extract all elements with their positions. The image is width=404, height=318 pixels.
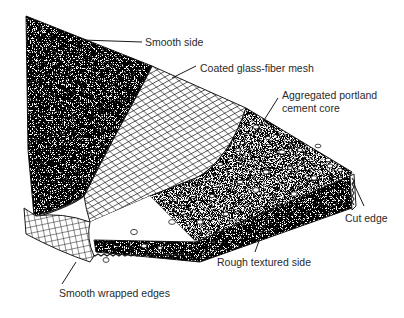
label-mesh: Coated glass-fiber mesh — [200, 62, 314, 74]
leader-mesh — [172, 66, 196, 78]
cement-board-diagram: Smooth side Coated glass-fiber mesh Aggr… — [0, 0, 404, 318]
label-rough-side: Rough textured side — [217, 256, 311, 268]
leader-wrapped-edges — [62, 262, 76, 284]
label-wrapped-edges: Smooth wrapped edges — [59, 287, 170, 299]
label-smooth-side: Smooth side — [145, 36, 204, 48]
label-core-line2: cement core — [282, 102, 340, 114]
label-core-line1: Aggregated portland — [282, 89, 377, 101]
smooth-wrapped-edge — [24, 208, 94, 262]
label-cut-edge: Cut edge — [345, 212, 388, 224]
